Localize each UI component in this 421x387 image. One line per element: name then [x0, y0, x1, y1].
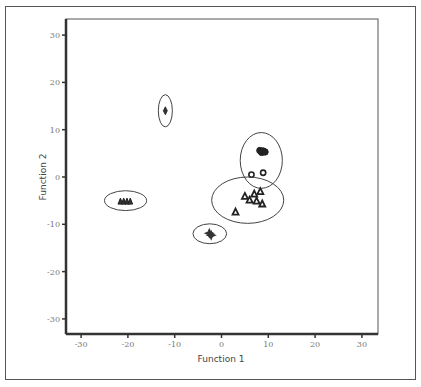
- circle-marker: [249, 172, 254, 177]
- circle-marker: [261, 170, 266, 175]
- y-axis-title: Function 2: [38, 154, 48, 201]
- x-axis-ticks: -30-20-100102030: [75, 334, 367, 349]
- y-axis-ticks: 3020100-10-20-30: [47, 31, 66, 324]
- y-tick-label: 10: [50, 126, 60, 135]
- circle-marker: [262, 149, 268, 155]
- plot-area: [66, 19, 378, 334]
- x-tick-label: -30: [75, 340, 88, 349]
- y-tick-label: 20: [50, 78, 60, 87]
- x-tick-label: 0: [219, 340, 224, 349]
- x-axis-title: Function 1: [198, 354, 245, 364]
- y-tick-label: -30: [47, 315, 60, 324]
- x-tick-label: -20: [121, 340, 134, 349]
- x-tick-label: 10: [263, 340, 273, 349]
- y-tick-label: 0: [55, 173, 60, 182]
- x-tick-label: 30: [357, 340, 367, 349]
- y-tick-label: -10: [47, 220, 60, 229]
- y-tick-label: 30: [50, 31, 60, 40]
- scatter-chart: 3020100-10-20-30 -30-20-100102030 Functi…: [0, 0, 421, 387]
- x-tick-label: 20: [310, 340, 320, 349]
- x-tick-label: -10: [168, 340, 181, 349]
- y-tick-label: -20: [47, 268, 60, 277]
